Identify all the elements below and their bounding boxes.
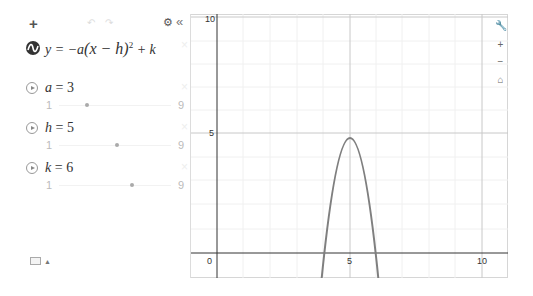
collapse-panel-icon[interactable]: « <box>176 14 183 29</box>
graphics-view[interactable]: 0 5 10 5 10 <box>191 14 508 278</box>
graph-canvas[interactable]: 0 5 10 5 10 <box>191 14 508 278</box>
wrench-icon[interactable]: 🔧 <box>493 20 508 31</box>
delete-icon[interactable]: × <box>181 80 188 94</box>
play-icon[interactable] <box>26 162 38 174</box>
play-icon[interactable] <box>26 122 38 134</box>
keyboard-icon[interactable] <box>30 257 41 265</box>
function-visibility-icon[interactable] <box>26 41 40 55</box>
x-tick-5: 5 <box>347 256 352 266</box>
x-tick-0: 0 <box>207 256 212 266</box>
slider-row-a: a = 3 × 1 9 <box>23 80 190 114</box>
slider-max: 9 <box>178 99 184 111</box>
slider-a[interactable]: 1 9 <box>23 99 190 111</box>
zoom-in-icon[interactable]: + <box>493 39 508 50</box>
home-icon[interactable]: ⌂ <box>493 74 508 85</box>
slider-min: 1 <box>46 99 52 111</box>
slider-max: 9 <box>178 179 184 191</box>
delete-icon[interactable]: × <box>181 160 188 174</box>
slider-track[interactable] <box>59 105 171 106</box>
algebra-panel: + ↶ ↷ ⚙ « y = −a(x − h)2 + k × a = 3 × 1… <box>23 14 191 278</box>
slider-knob[interactable] <box>115 143 119 147</box>
slider-max: 9 <box>178 139 184 151</box>
major-grid <box>191 14 508 278</box>
slider-label[interactable]: k = 6 <box>45 160 73 176</box>
undo-icon[interactable]: ↶ <box>87 17 95 28</box>
slider-min: 1 <box>46 139 52 151</box>
delete-icon[interactable]: × <box>181 38 188 52</box>
x-tick-10: 10 <box>477 256 487 266</box>
slider-h[interactable]: 1 9 <box>23 139 190 151</box>
slider-k[interactable]: 1 9 <box>23 179 190 191</box>
gear-icon[interactable]: ⚙ <box>163 16 173 29</box>
slider-label[interactable]: a = 3 <box>45 80 74 96</box>
function-expression[interactable]: y = −a(x − h)2 + k <box>45 40 156 58</box>
delete-icon[interactable]: × <box>181 120 188 134</box>
slider-track[interactable] <box>59 185 171 186</box>
play-icon[interactable] <box>26 82 38 94</box>
algebra-toolbar: + ↶ ↷ ⚙ « <box>23 14 191 34</box>
y-tick-5: 5 <box>209 128 214 138</box>
slider-knob[interactable] <box>85 103 89 107</box>
redo-icon[interactable]: ↷ <box>105 17 113 28</box>
function-row[interactable]: y = −a(x − h)2 + k × <box>23 38 190 66</box>
slider-row-k: k = 6 × 1 9 <box>23 160 190 194</box>
keyboard-toggle-arrow[interactable]: ▲ <box>44 258 51 265</box>
zoom-out-icon[interactable]: − <box>493 56 508 67</box>
slider-min: 1 <box>46 179 52 191</box>
y-tick-10: 10 <box>205 14 215 24</box>
slider-row-h: h = 5 × 1 9 <box>23 120 190 154</box>
add-icon[interactable]: + <box>29 15 38 32</box>
slider-knob[interactable] <box>130 183 134 187</box>
slider-label[interactable]: h = 5 <box>45 120 74 136</box>
